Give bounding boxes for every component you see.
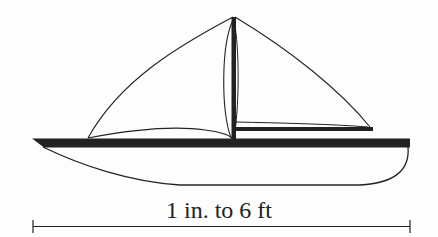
mast bbox=[232, 17, 237, 140]
mainsail-leech bbox=[235, 17, 370, 127]
jib-sail-foot bbox=[88, 128, 232, 138]
hull bbox=[43, 147, 408, 185]
sailboat-diagram: 1 in. to 6 ft bbox=[0, 0, 438, 237]
jib-sail-luff bbox=[88, 17, 233, 138]
deck bbox=[32, 139, 410, 148]
mainsail-foot bbox=[236, 122, 368, 127]
scale-label: 1 in. to 6 ft bbox=[0, 196, 438, 224]
boom bbox=[236, 127, 373, 131]
